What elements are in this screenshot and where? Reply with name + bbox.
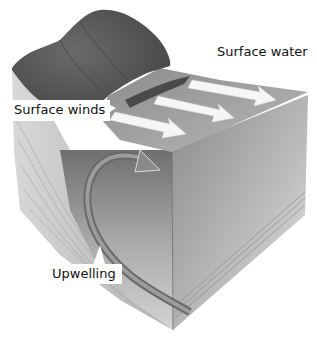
upwelling-label: Upwelling [48,264,122,284]
surface-water-label: Surface water [217,44,308,60]
surface-winds-label: Surface winds [6,100,110,121]
upwelling-diagram: Surface water Surface winds Upwelling [0,0,317,338]
